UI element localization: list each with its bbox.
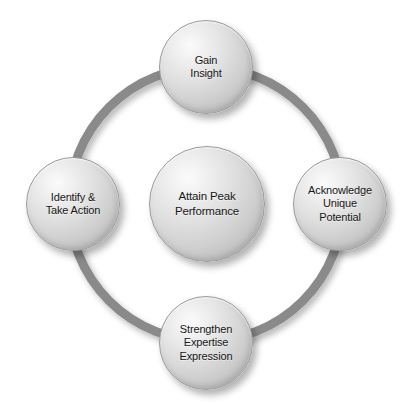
- node-attain-peak-performance[interactable]: Attain Peak Performance: [149, 146, 265, 262]
- node-acknowledge-unique-potential-label: Acknowledge Unique Potential: [304, 184, 376, 225]
- node-acknowledge-unique-potential[interactable]: Acknowledge Unique Potential: [293, 157, 387, 251]
- cycle-diagram: Gain Insight Acknowledge Unique Potentia…: [0, 0, 413, 420]
- node-gain-insight[interactable]: Gain Insight: [159, 20, 253, 114]
- node-identify-take-action[interactable]: Identify & Take Action: [26, 157, 120, 251]
- node-strengthen-expertise-expression-label: Strengthen Expertise Expression: [176, 323, 237, 364]
- node-attain-peak-performance-label: Attain Peak Performance: [171, 189, 243, 219]
- node-gain-insight-label: Gain Insight: [186, 54, 225, 81]
- node-identify-take-action-label: Identify & Take Action: [42, 191, 105, 218]
- node-strengthen-expertise-expression[interactable]: Strengthen Expertise Expression: [159, 296, 253, 390]
